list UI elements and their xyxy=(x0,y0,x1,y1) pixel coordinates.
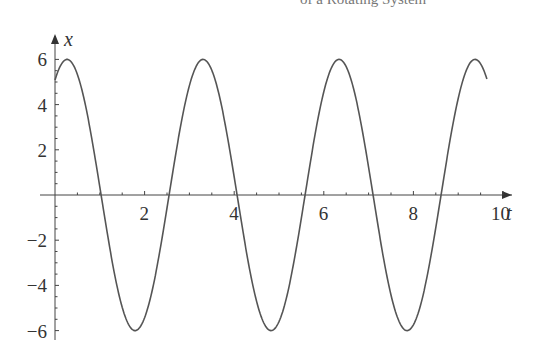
y-tick-label: 6 xyxy=(38,49,48,70)
y-tick-label: −2 xyxy=(27,230,47,251)
x-axis-label: t xyxy=(506,202,512,224)
x-tick-label: 8 xyxy=(408,203,418,224)
y-axis-label: x xyxy=(63,28,73,50)
y-tick-label: −6 xyxy=(27,321,47,342)
x-tick-label: 6 xyxy=(319,203,329,224)
y-tick-label: 4 xyxy=(38,95,48,116)
line-chart: 246810−6−4−2246 t x xyxy=(0,0,536,362)
x-tick-label: 4 xyxy=(229,203,239,224)
y-tick-label: 2 xyxy=(38,140,48,161)
y-tick-label: −4 xyxy=(27,275,48,296)
x-tick-label: 2 xyxy=(140,203,150,224)
axes xyxy=(40,34,512,340)
